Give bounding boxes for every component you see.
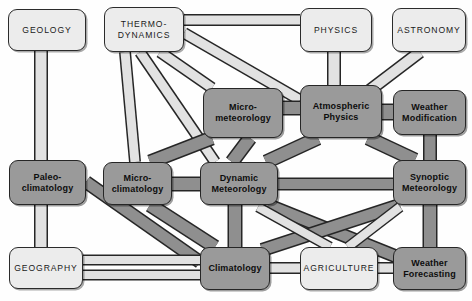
node-label-microclim: Micro-climatology [109,173,167,194]
node-weathermod[interactable]: WeatherModification [393,90,466,135]
node-climatology[interactable]: Climatology [200,247,270,290]
node-label-dynamicmet: DynamicMeteorology [208,173,269,194]
node-agriculture[interactable]: AGRICULTURE [300,247,378,290]
connector-micromet-to-dynamicmet [232,138,250,162]
node-label-thermo: THERMO-DYNAMICS [115,19,174,39]
node-microclim[interactable]: Micro-climatology [103,162,172,205]
node-label-astronomy: ASTRONOMY [394,25,464,35]
node-synoptic[interactable]: SynopticMeteorology [393,160,466,205]
node-atmosphys[interactable]: AtmosphericPhysics [300,85,382,138]
node-label-weathermod: WeatherModification [399,102,460,123]
node-geology[interactable]: GEOLOGY [8,9,86,51]
node-label-paleo: Paleo-climatology [19,172,77,193]
node-thermo[interactable]: THERMO-DYNAMICS [104,7,184,52]
node-micromet[interactable]: Micro-meteorology [203,88,283,138]
node-label-geology: GEOLOGY [19,25,74,35]
node-forecasting[interactable]: WeatherForecasting [393,247,466,290]
connector-atmosphys-to-synoptic [368,138,415,160]
node-label-agriculture: AGRICULTURE [301,263,378,273]
node-paleo[interactable]: Paleo-climatology [9,160,86,205]
node-label-synoptic: SynopticMeteorology [399,172,460,193]
diagram-canvas: GEOLOGYTHERMO-DYNAMICSPHYSICSASTRONOMYMi… [0,0,472,301]
node-label-geography: GEOGRAPHY [11,263,81,273]
node-physics[interactable]: PHYSICS [300,8,372,52]
node-geography[interactable]: GEOGRAPHY [9,247,83,289]
connector-atmosphys-to-dynamicmet [266,138,318,162]
node-label-climatology: Climatology [205,263,264,274]
node-dynamicmet[interactable]: DynamicMeteorology [200,162,278,205]
node-label-physics: PHYSICS [311,25,361,35]
node-label-atmosphys: AtmosphericPhysics [310,101,373,122]
connector-thermo-to-microclim [125,52,135,162]
node-label-micromet: Micro-meteorology [212,102,274,123]
connector-astronomy-to-atmosphys [370,52,420,90]
node-label-forecasting: WeatherForecasting [400,258,459,279]
node-astronomy[interactable]: ASTRONOMY [392,8,466,52]
